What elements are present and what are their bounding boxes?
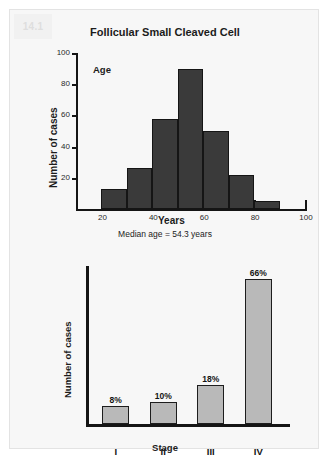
histogram-title: Follicular Small Cleaved Cell xyxy=(10,26,320,38)
stage-bar: 66% xyxy=(245,279,272,424)
histogram-bar xyxy=(178,69,203,209)
histogram-bar xyxy=(101,189,126,209)
histogram-x-tick-label: 60 xyxy=(190,213,218,222)
stage-category-label: II xyxy=(140,446,186,457)
histogram-x-tick xyxy=(305,200,307,211)
histogram-plot-area: 2040608010020406080100 xyxy=(76,53,305,209)
histogram-bar xyxy=(152,119,177,209)
stage-y-axis-label: Number of cases xyxy=(62,321,73,398)
stage-x-axis xyxy=(86,424,290,427)
histogram-y-axis xyxy=(76,53,78,210)
histogram-y-tick xyxy=(72,84,77,86)
stage-plot-area: 8%I10%II18%III66%IV xyxy=(86,266,276,424)
histogram-x-tick-label: 80 xyxy=(241,213,269,222)
histogram-x-tick-label: 20 xyxy=(88,213,116,222)
stage-bar-value-label: 66% xyxy=(228,268,288,278)
stage-bar: 10% xyxy=(150,402,177,424)
histogram-y-tick-label: 80 xyxy=(44,79,70,88)
histogram-y-tick-label: 20 xyxy=(44,173,70,182)
histogram-x-tick-label: 40 xyxy=(139,213,167,222)
stage-category-label: III xyxy=(188,446,234,457)
histogram-y-tick-label: 60 xyxy=(44,110,70,119)
histogram-x-tick-label: 100 xyxy=(292,213,320,222)
stage-category-label: I xyxy=(93,446,139,457)
histogram-bar xyxy=(203,131,228,209)
histogram-x-axis xyxy=(76,209,307,211)
stage-bar: 8% xyxy=(102,406,129,424)
histogram-y-tick xyxy=(72,147,77,149)
stage-bar: 18% xyxy=(197,385,224,425)
histogram-caption-median-age: Median age = 54.3 years xyxy=(10,229,320,239)
stage-bar-value-label: 18% xyxy=(181,374,241,384)
histogram-y-tick xyxy=(72,115,77,117)
histogram-bar xyxy=(127,168,152,209)
histogram-y-tick xyxy=(72,53,77,55)
histogram-bar xyxy=(229,175,254,209)
stage-bar-value-label: 10% xyxy=(133,391,193,401)
stage-bar-chart: Number of cases Stage 8%I10%II18%III66%I… xyxy=(10,250,320,450)
histogram-y-tick-label: 40 xyxy=(44,142,70,151)
histogram-bar xyxy=(254,201,279,209)
histogram-y-tick-label: 100 xyxy=(44,48,70,57)
histogram-y-tick xyxy=(72,178,77,180)
figure-page: 14.1 Follicular Small Cleaved Cell Age N… xyxy=(0,0,330,459)
stage-category-label: IV xyxy=(235,446,281,457)
age-histogram-chart: Follicular Small Cleaved Cell Age Number… xyxy=(10,10,320,250)
figure-panel: 14.1 Follicular Small Cleaved Cell Age N… xyxy=(9,9,319,449)
